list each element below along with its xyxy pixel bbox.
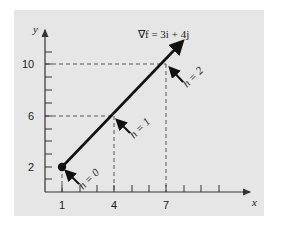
x-tick-label-4: 4 — [111, 199, 117, 211]
dashed-guides — [45, 64, 166, 192]
axes — [45, 30, 250, 192]
y-tick-label-6: 6 — [28, 110, 34, 122]
y-tick-label-10: 10 — [22, 58, 34, 70]
x-tick-label-1: 1 — [59, 199, 65, 211]
x-tick-label-7: 7 — [163, 199, 169, 211]
x-axis-label: x — [251, 196, 257, 208]
y-tick-label-2: 2 — [28, 161, 34, 173]
gradient-vector-label: ∇f = 3i + 4j — [137, 28, 189, 40]
annotation-h0: h = 0 — [76, 166, 102, 192]
start-point-dot — [58, 163, 66, 171]
gradient-diagram: 2 6 10 1 4 7 y x ∇f = 3i + 4j h = 0 h = … — [0, 0, 286, 232]
y-ticks — [45, 52, 52, 179]
gradient-vector-line — [62, 43, 181, 167]
annotation-h2: h = 2 — [180, 64, 206, 90]
y-axis-label: y — [32, 23, 38, 35]
annotation-h1: h = 1 — [127, 115, 152, 140]
